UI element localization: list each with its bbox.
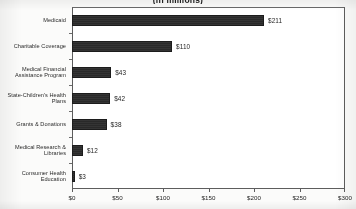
category-label: Medical Financial Assistance Program [0, 66, 66, 79]
bar-row: $43 [72, 67, 345, 78]
bar-chart: (in millions) MedicaidCharitable Coverag… [0, 0, 356, 209]
x-axis-tick [254, 189, 255, 192]
x-axis-tick [209, 189, 210, 192]
bar-row: $3 [72, 171, 345, 182]
category-tick [69, 163, 72, 164]
x-axis-tick [72, 189, 73, 192]
bar [72, 41, 172, 52]
x-axis-label: $200 [247, 194, 261, 202]
bar-row: $211 [72, 15, 345, 26]
category-label: State-Children's Health Plans [0, 92, 66, 105]
x-axis-label: $100 [156, 194, 170, 202]
bar-value-label: $110 [176, 42, 190, 51]
category-tick [69, 85, 72, 86]
bar-row: $38 [72, 119, 345, 130]
bar-value-label: $38 [111, 120, 122, 129]
chart-title: (in millions) [0, 0, 356, 4]
bar [72, 145, 83, 156]
category-label: Charitable Coverage [0, 43, 66, 50]
bar-value-label: $42 [114, 94, 125, 103]
category-tick [69, 59, 72, 60]
category-label: Medicaid [0, 17, 66, 24]
category-tick [69, 111, 72, 112]
bar-value-label: $3 [79, 172, 86, 181]
bar [72, 93, 110, 104]
bar-row: $12 [72, 145, 345, 156]
category-tick [69, 137, 72, 138]
x-axis-label: $50 [112, 194, 123, 202]
x-axis-tick [344, 189, 345, 192]
bar [72, 67, 111, 78]
bar-value-label: $12 [87, 146, 98, 155]
x-axis-tick [300, 189, 301, 192]
category-label: Medical Research & Libraries [0, 144, 66, 157]
bar-value-label: $43 [115, 68, 126, 77]
bar [72, 15, 264, 26]
x-axis-tick [163, 189, 164, 192]
bar-row: $110 [72, 41, 345, 52]
bar [72, 171, 75, 182]
category-label: Consumer Health Education [0, 170, 66, 183]
bar [72, 119, 107, 130]
category-axis: MedicaidCharitable CoverageMedical Finan… [0, 7, 70, 189]
category-label: Grants & Donations [0, 121, 66, 128]
x-axis-label: $150 [201, 194, 215, 202]
x-axis-label: $300 [338, 194, 352, 202]
x-axis-tick [118, 189, 119, 192]
x-axis-label: $0 [68, 194, 75, 202]
bar-row: $42 [72, 93, 345, 104]
x-axis-label: $250 [292, 194, 306, 202]
category-tick [69, 33, 72, 34]
bar-value-label: $211 [268, 16, 282, 25]
